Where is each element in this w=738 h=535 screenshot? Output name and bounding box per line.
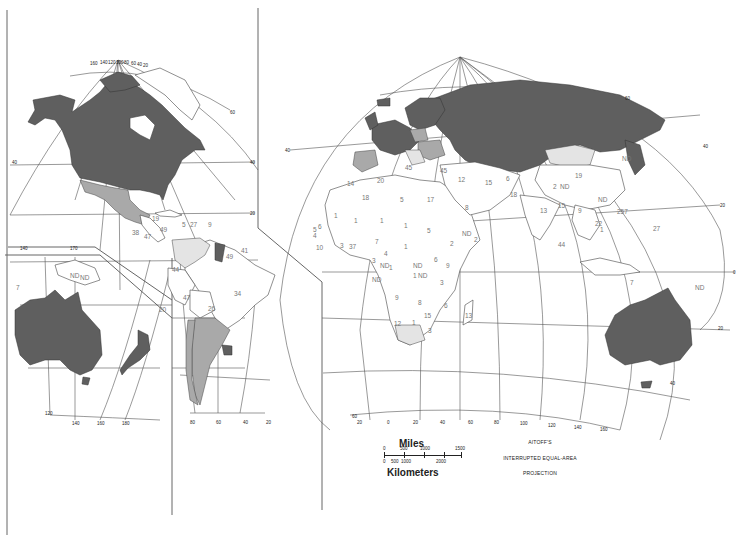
svg-text:40: 40	[285, 148, 291, 153]
svg-text:120: 120	[45, 411, 53, 416]
svg-text:7: 7	[16, 284, 20, 291]
svg-text:140: 140	[574, 425, 582, 430]
svg-text:41: 41	[241, 247, 249, 254]
svg-text:160: 160	[90, 61, 98, 66]
svg-text:20: 20	[266, 420, 272, 425]
svg-text:120: 120	[548, 423, 556, 428]
scale-km-tick: 500	[391, 459, 399, 464]
svg-text:15: 15	[485, 179, 493, 186]
svg-text:20: 20	[250, 211, 256, 216]
svg-text:40: 40	[250, 160, 256, 165]
scale-miles-tick: 1500	[455, 446, 465, 451]
svg-text:1: 1	[413, 272, 417, 279]
svg-text:5: 5	[400, 196, 404, 203]
svg-text:140: 140	[100, 60, 108, 65]
svg-text:49: 49	[226, 253, 234, 260]
svg-text:7: 7	[375, 238, 379, 245]
svg-text:1: 1	[404, 243, 408, 250]
scale-tick	[444, 452, 445, 458]
world-map: 160 140 120 100 80 60 40 20 60 40 40 20 …	[0, 0, 738, 535]
svg-text:3: 3	[340, 242, 344, 249]
svg-text:160: 160	[600, 427, 608, 432]
svg-text:140: 140	[20, 246, 28, 251]
svg-text:170: 170	[70, 246, 78, 251]
svg-text:8: 8	[465, 204, 469, 211]
svg-text:0: 0	[733, 270, 736, 275]
scale-tick	[424, 452, 425, 458]
svg-text:ND: ND	[462, 230, 472, 237]
svg-text:120: 120	[108, 60, 116, 65]
svg-text:ND: ND	[80, 274, 90, 281]
svg-text:19: 19	[575, 172, 583, 179]
north-america	[28, 68, 205, 242]
svg-text:4: 4	[384, 250, 388, 257]
svg-text:60: 60	[468, 420, 474, 425]
scale-km-tick: 2000	[436, 459, 446, 464]
svg-text:45: 45	[440, 167, 448, 174]
svg-text:60: 60	[230, 110, 236, 115]
svg-text:6: 6	[318, 223, 322, 230]
svg-text:6: 6	[444, 302, 448, 309]
scale-tick	[404, 452, 405, 458]
svg-text:60: 60	[131, 61, 137, 66]
scale-km-tick: 0	[383, 459, 386, 464]
svg-text:12: 12	[394, 320, 402, 327]
svg-text:6: 6	[506, 175, 510, 182]
projection-title-line: AITOFF'S	[480, 439, 600, 445]
svg-text:10: 10	[316, 244, 324, 251]
svg-text:40: 40	[440, 420, 446, 425]
svg-text:80: 80	[494, 420, 500, 425]
svg-text:20: 20	[720, 203, 726, 208]
svg-text:14: 14	[347, 180, 355, 187]
svg-text:47: 47	[144, 233, 152, 240]
svg-text:5: 5	[427, 227, 431, 234]
svg-text:7: 7	[630, 279, 634, 286]
region-australia-east	[605, 288, 692, 365]
svg-text:ND: ND	[372, 276, 382, 283]
svg-text:19: 19	[152, 215, 160, 222]
svg-text:9: 9	[578, 207, 582, 214]
scale-km-label: Kilometers	[387, 467, 439, 478]
svg-text:17: 17	[427, 196, 435, 203]
svg-text:3: 3	[428, 327, 432, 334]
scale-tick	[384, 452, 385, 458]
svg-text:27: 27	[190, 221, 198, 228]
svg-text:8: 8	[418, 299, 422, 306]
svg-text:ND: ND	[560, 183, 570, 190]
scale-tick	[461, 452, 462, 458]
svg-text:20: 20	[143, 63, 149, 68]
scale-miles-tick: 1000	[420, 446, 430, 451]
region-india	[520, 195, 560, 240]
svg-text:60: 60	[625, 96, 631, 101]
svg-text:38: 38	[132, 229, 140, 236]
svg-text:80: 80	[124, 60, 130, 65]
svg-text:34: 34	[234, 290, 242, 297]
svg-text:20: 20	[377, 177, 385, 184]
region-tasmania	[82, 377, 90, 385]
svg-text:49: 49	[160, 226, 168, 233]
svg-text:13: 13	[465, 312, 473, 319]
svg-text:60: 60	[352, 414, 358, 419]
svg-text:100: 100	[116, 60, 124, 65]
svg-text:6: 6	[434, 256, 438, 263]
svg-text:100: 100	[520, 421, 528, 426]
svg-text:45: 45	[405, 164, 413, 171]
svg-text:5: 5	[182, 221, 186, 228]
scale-bar	[384, 455, 462, 456]
svg-text:0: 0	[387, 420, 390, 425]
svg-text:15: 15	[558, 202, 566, 209]
svg-text:3: 3	[440, 279, 444, 286]
svg-text:47: 47	[183, 294, 191, 301]
region-iberia	[353, 150, 378, 172]
svg-text:13: 13	[540, 207, 548, 214]
region-iceland	[377, 98, 390, 106]
svg-text:40: 40	[12, 160, 18, 165]
svg-text:9: 9	[208, 221, 212, 228]
svg-text:26: 26	[208, 305, 216, 312]
svg-text:1: 1	[412, 319, 416, 326]
svg-text:40: 40	[670, 381, 676, 386]
svg-text:257: 257	[617, 208, 628, 215]
region-australia-west	[15, 290, 102, 375]
svg-text:1: 1	[600, 226, 604, 233]
region-uruguay	[222, 345, 232, 355]
